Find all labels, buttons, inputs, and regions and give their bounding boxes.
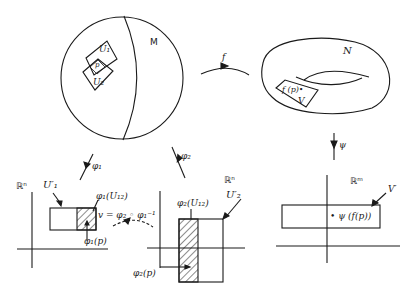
chart-rn-1 [17,192,108,268]
patch-u2-label: U₂ [93,78,104,87]
transition-map-label: v = φ₂ ◦ φ₁⁻¹ [98,211,156,220]
manifold-m-label: M [150,38,158,47]
point-p-label: p [95,62,99,69]
sphere-m [61,16,183,140]
point-phi1-p-label: φ₁(p) [84,237,107,246]
point-phi2-p-label: φ₂(p) [133,269,156,278]
map-phi2-label: φ₂ [181,152,191,161]
manifold-n-label: N [343,46,352,56]
diagram-drawing [0,0,416,290]
map-phi1-label: φ₁ [92,162,102,171]
region-v-prime-label: V′ [388,185,397,194]
patch-u1-label: U₁ [99,45,110,54]
map-psi-arrow [331,133,337,160]
chart-rn-1-space-label: ℝⁿ [16,182,27,191]
chart-rm-space-label: ℝᵐ [350,177,363,186]
torus-n [262,38,390,113]
patch-v-label: V [298,97,305,106]
region-u1-prime-label: U′₁ [43,180,58,190]
map-psi-label: ψ [339,141,346,150]
point-fp-label: f (p)• [282,86,304,94]
point-psi-fp-label: • ψ (f(p)) [330,212,371,221]
chart-rn-2-space-label: ℝⁿ [224,176,235,185]
map-f-arrow [201,63,249,75]
map-f-label: f [222,53,225,62]
overlap-phi2-label: φ₂(U₁₂) [177,199,209,208]
manifold-charts-diagram: M U₁ p U₂ f N f (p)• V φ₁ φ₂ ψ ℝⁿ U′₁ φ₁… [0,0,416,290]
region-u2-prime-label: U′₂ [226,190,241,200]
overlap-phi1-label: φ₁(U₁₂) [96,192,128,201]
